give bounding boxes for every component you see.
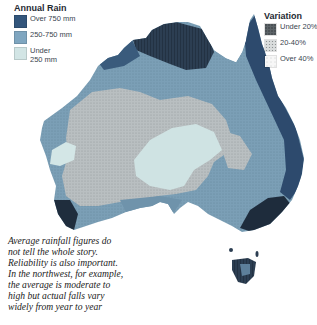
legend-label: 20-40% (280, 39, 306, 48)
swatch-light-cyan-icon (14, 47, 27, 60)
legend-title: Annual Rain (14, 3, 84, 13)
swatch-dark-blue-icon (14, 15, 27, 28)
legend-title: Variation (264, 11, 317, 21)
caption-line: the average is moderate to (8, 279, 163, 290)
caption-line: Average rainfall figures do (8, 235, 163, 246)
legend-label: Under 250 mm (30, 47, 57, 64)
dense-dot-pattern-icon (264, 23, 277, 36)
legend-item-over-750: Over 750 mm (14, 15, 84, 28)
legend-label: Over 40% (280, 55, 313, 64)
legend-item-under-20: Under 20% (264, 23, 317, 36)
sparse-dot-pattern-icon (264, 55, 277, 68)
caption-line: Reliability is also important. (8, 257, 163, 268)
caption-line: high but actual falls vary (8, 290, 163, 301)
legend-label: Over 750 mm (30, 15, 75, 24)
map-caption: Average rainfall figures do not tell the… (8, 235, 163, 312)
legend-item-under-250: Under 250 mm (14, 47, 84, 64)
caption-line: widely from year to year (8, 301, 163, 312)
legend-label: Under 20% (280, 23, 317, 32)
legend-label-line2: 250 mm (30, 55, 57, 64)
annual-rain-legend: Annual Rain Over 750 mm 250-750 mm Under… (14, 3, 84, 67)
swatch-mid-blue-icon (14, 31, 27, 44)
caption-line: not tell the whole story. (8, 246, 163, 257)
caption-line: In the northwest, for example, (8, 268, 163, 279)
legend-label: 250-750 mm (30, 31, 72, 40)
medium-dot-pattern-icon (264, 39, 277, 52)
legend-item-over-40: Over 40% (264, 55, 317, 68)
legend-item-250-750: 250-750 mm (14, 31, 84, 44)
legend-item-20-40: 20-40% (264, 39, 317, 52)
variation-legend: Variation Under 20% 20-40% Over 40% (264, 11, 317, 71)
